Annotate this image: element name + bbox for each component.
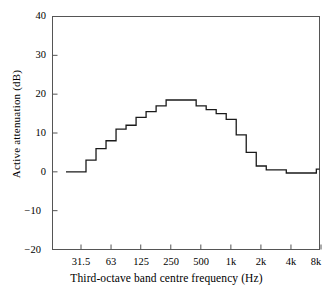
- x-tick-label-63: 63: [106, 256, 117, 267]
- y-tick-label-10: 10: [20, 128, 46, 138]
- y-tick-label-0: 0: [20, 167, 46, 177]
- x-tick-label-4k: 4k: [286, 256, 297, 267]
- x-tick-label-8k: 8k: [311, 256, 322, 267]
- y-tick-label-20: 20: [20, 89, 46, 99]
- plot-area: [0, 0, 333, 296]
- y-tick-label-40: 40: [20, 11, 46, 21]
- y-tick-label-neg10: −10: [15, 206, 41, 216]
- x-axis-ticks: [81, 245, 321, 250]
- y-axis-ticks: [53, 17, 58, 250]
- x-tick-label-250: 250: [163, 256, 179, 267]
- chart-figure: Active attenuation (dB) Third-octave ban…: [0, 0, 333, 296]
- x-tick-label-31-5: 31.5: [72, 256, 90, 267]
- attenuation-step-curve: [66, 100, 320, 173]
- x-tick-label-2k: 2k: [256, 256, 267, 267]
- x-tick-label-125: 125: [133, 256, 149, 267]
- x-tick-label-500: 500: [193, 256, 209, 267]
- y-tick-label-neg20: −20: [15, 245, 41, 255]
- plot-frame: [53, 17, 320, 250]
- x-tick-label-1k: 1k: [226, 256, 237, 267]
- x-axis-label: Third-octave band centre frequency (Hz): [0, 272, 333, 284]
- y-tick-label-30: 30: [20, 50, 46, 60]
